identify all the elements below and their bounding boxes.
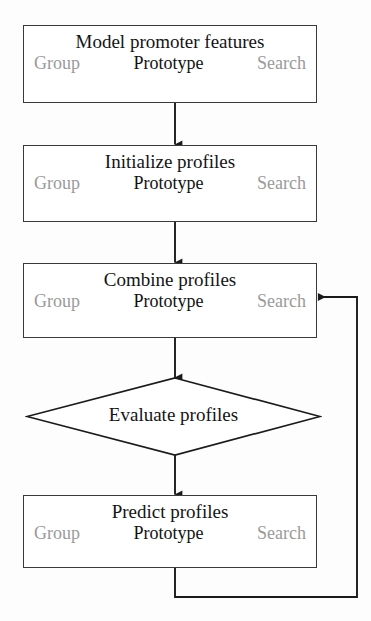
tool-group[interactable]: Group [34,174,80,193]
tool-search[interactable]: Search [257,174,306,193]
tool-group[interactable]: Group [34,524,80,543]
tool-prototype[interactable]: Prototype [134,54,204,73]
node-model-promoter-features[interactable]: Model promoter features Group Prototype … [23,25,317,103]
node-combine-profiles[interactable]: Combine profiles Group Prototype Search [23,263,317,338]
tool-search[interactable]: Search [257,524,306,543]
node-predict-profiles[interactable]: Predict profiles Group Prototype Search [23,495,317,568]
node-title: Initialize profiles [105,152,235,172]
node-tool-row: Group Prototype Search [24,524,316,543]
tool-search[interactable]: Search [257,292,306,311]
node-tool-row: Group Prototype Search [24,54,316,73]
tool-prototype[interactable]: Prototype [134,292,204,311]
tool-prototype[interactable]: Prototype [134,174,204,193]
node-title: Combine profiles [104,270,236,290]
node-tool-row: Group Prototype Search [24,292,316,311]
node-title: Evaluate profiles [25,404,322,426]
tool-group[interactable]: Group [34,54,80,73]
node-title: Model promoter features [76,32,265,52]
node-tool-row: Group Prototype Search [24,174,316,193]
node-evaluate-profiles[interactable]: Evaluate profiles [25,376,322,457]
flowchart-canvas: Model promoter features Group Prototype … [0,0,371,621]
tool-group[interactable]: Group [34,292,80,311]
tool-search[interactable]: Search [257,54,306,73]
node-initialize-profiles[interactable]: Initialize profiles Group Prototype Sear… [23,145,317,222]
tool-prototype[interactable]: Prototype [134,524,204,543]
node-title: Predict profiles [112,502,229,522]
